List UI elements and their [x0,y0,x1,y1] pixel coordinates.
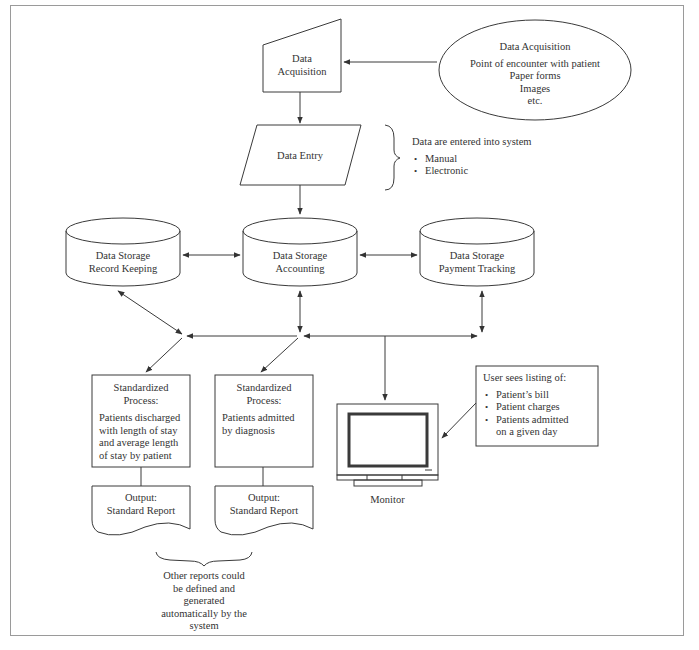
reports-brace [156,552,252,566]
monitor-note-bullet: Patient’s bill [483,389,595,402]
data-acquisition-label: Data Acquisition [263,53,341,78]
output-1-label: Output: Standard Report [92,492,190,517]
storage-record-label: Data Storage Record Keeping [66,250,180,275]
entry-note-title: Data are entered into system [412,136,592,149]
process-2-body: Patients admitted by diagnosis [222,412,314,437]
reports-note: Other reports could be defined and gener… [144,570,264,633]
acquisition-source-text: Data Acquisition Point of encounter with… [450,41,620,108]
entry-brace [385,125,400,190]
monitor-note-title: User sees listing of: [483,372,595,385]
monitor-note-bullet: Patients admitted on a given day [483,414,595,439]
entry-note: Data are entered into system Manual Elec… [412,136,592,178]
monitor-icon [337,404,438,486]
process-1-title: Standardized Process: [92,382,190,407]
output-2-label: Output: Standard Report [215,492,313,517]
storage-accounting-label: Data Storage Accounting [243,250,357,275]
arrow-junction-process2 [261,338,298,372]
process-2-title: Standardized Process: [215,382,313,407]
arrow-record-junction [118,291,182,334]
arrow-junction-process1 [146,338,182,372]
arrow-note-monitor [442,403,476,438]
data-entry-label: Data Entry [250,150,350,163]
storage-payment-label: Data Storage Payment Tracking [420,250,534,275]
monitor-note: User sees listing of: Patient’s bill Pat… [483,372,595,439]
acquisition-source-title: Data Acquisition [450,41,620,54]
monitor-note-bullet: Patient charges [483,401,595,414]
monitor-label: Monitor [337,494,438,507]
entry-note-bullet: Electronic [412,165,592,178]
process-1-body: Patients discharged with length of stay … [99,412,191,462]
entry-note-bullet: Manual [412,153,592,166]
